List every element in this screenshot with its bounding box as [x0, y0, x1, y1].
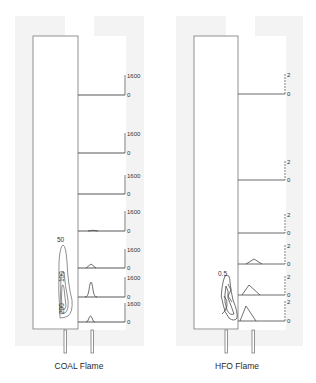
profile-peaks [85, 230, 98, 322]
contour-label-0-5: 0.5 [218, 270, 227, 277]
profile-baselines [78, 95, 125, 322]
hfo-flame-panel: 2 0 2 0 2 0 2 0 2 0 2 0 0.5 HFO Flame [158, 0, 316, 383]
svg-text:1600: 1600 [127, 247, 141, 253]
svg-text:1600: 1600 [127, 275, 141, 281]
svg-text:1600: 1600 [127, 131, 141, 137]
svg-text:1600: 1600 [127, 301, 141, 307]
coal-flame-caption: COAL Flame [0, 361, 158, 371]
svg-text:1600: 1600 [127, 209, 141, 215]
contour-label-100: 100 [58, 271, 65, 282]
hfo-flame-diagram: 2 0 2 0 2 0 2 0 2 0 2 0 0.5 [158, 0, 316, 383]
profile-baselines [238, 94, 285, 321]
contour-label-200: 200 [58, 303, 65, 314]
furnace-outline [194, 36, 238, 329]
furnace-outline [33, 36, 78, 329]
contour-label-50: 50 [57, 236, 65, 243]
profile-peaks [240, 259, 262, 321]
coal-flame-panel: 1600 0 1600 0 1600 0 1600 0 1600 0 1600 … [0, 0, 158, 383]
coal-flame-diagram: 1600 0 1600 0 1600 0 1600 0 1600 0 1600 … [0, 0, 158, 383]
svg-text:1600: 1600 [127, 73, 141, 79]
svg-text:1600: 1600 [127, 173, 141, 179]
hfo-flame-caption: HFO Flame [158, 361, 316, 371]
